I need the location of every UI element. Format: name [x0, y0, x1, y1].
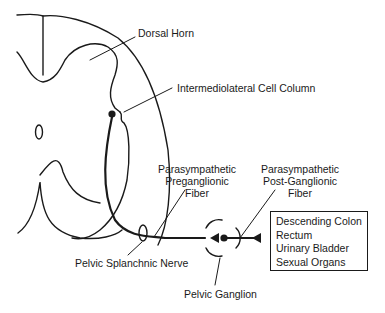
target-rectum: Rectum [276, 229, 362, 243]
synapse-arrow-pre [210, 233, 219, 243]
cord-outline [17, 14, 170, 245]
label-post-line3: Fiber [250, 187, 350, 199]
central-canal [36, 125, 43, 139]
label-pre-line3: Fiber [142, 187, 252, 199]
synapse-arrow-post [252, 233, 261, 243]
target-sexual-organs: Sexual Organs [276, 256, 362, 270]
label-post-line2: Post-Ganglionic [250, 175, 350, 187]
label-dorsal-horn: Dorsal Horn [138, 27, 194, 39]
ganglion-cell-body [220, 234, 227, 241]
ventral-horn [40, 161, 100, 203]
label-post-line1: Parasympathetic [250, 163, 350, 175]
splanchnic-nerve-marker [139, 225, 147, 241]
dorsal-horn-left [17, 44, 120, 112]
label-iml: Intermediolateral Cell Column [177, 82, 315, 94]
label-pre-line2: Preganglionic [142, 175, 252, 187]
iml-cell-body [108, 110, 115, 117]
label-preganglionic: Parasympathetic Preganglionic Fiber [142, 163, 252, 199]
label-pre-line1: Parasympathetic [142, 163, 252, 175]
target-descending-colon: Descending Colon [276, 215, 362, 229]
leader-iml [124, 88, 172, 112]
gray-matter-contour [72, 112, 129, 239]
label-splanchnic: Pelvic Splanchnic Nerve [75, 257, 188, 269]
diagram-canvas: Dorsal Horn Intermediolateral Cell Colum… [0, 0, 385, 313]
leader-splanchnic [128, 242, 142, 255]
label-postganglionic: Parasympathetic Post-Ganglionic Fiber [250, 163, 350, 199]
target-urinary-bladder: Urinary Bladder [276, 242, 362, 256]
leader-ganglion [215, 258, 220, 285]
target-organs-box: Descending Colon Rectum Urinary Bladder … [270, 211, 368, 271]
label-ganglion: Pelvic Ganglion [184, 288, 257, 300]
